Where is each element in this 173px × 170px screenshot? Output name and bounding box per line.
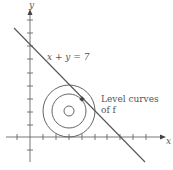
level-curves-label-line1: Level curves [101,94,159,104]
x-axis [6,134,162,140]
y-axis [27,12,33,162]
tangent-point [79,96,85,102]
level-curves-label-line2: of f [101,105,117,115]
y-axis-label: y [28,0,35,10]
diagram-canvas: y x x + y = 7 Level curves of f [0,0,173,170]
line-label: x + y = 7 [47,52,90,62]
x-axis-label: x [166,136,171,146]
level-curves [43,85,95,137]
